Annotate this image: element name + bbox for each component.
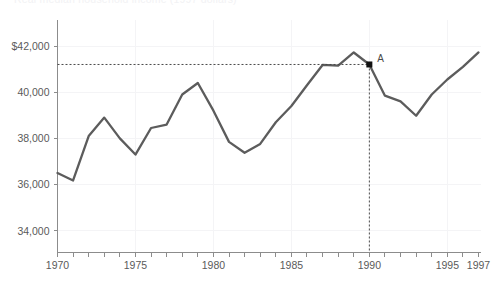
annotation-label-a: A [377, 53, 384, 64]
y-tick-label: 36,000 [17, 178, 49, 190]
chart-figure: Real median household income (1997 dolla… [0, 0, 501, 287]
y-tick-label: 40,000 [17, 86, 49, 98]
grid-lines [58, 20, 481, 253]
x-tick-label: 1985 [280, 259, 304, 271]
x-tick-label: 1990 [358, 259, 382, 271]
x-tick-label: 1997 [467, 259, 491, 271]
y-axis-ticks: 34,00036,00038,00040,000$42,000 [12, 40, 58, 237]
x-tick-label: 1995 [436, 259, 460, 271]
line-chart-canvas: 34,00036,00038,00040,000$42,000 19701975… [0, 0, 501, 287]
y-tick-label: 38,000 [17, 132, 49, 144]
annotation-group: A [58, 53, 385, 252]
x-axis-ticks: 1970197519801985199019951997 [46, 253, 491, 271]
x-tick-label: 1980 [202, 259, 226, 271]
x-tick-label: 1970 [46, 259, 70, 271]
y-tick-label: $42,000 [12, 40, 50, 52]
data-series [58, 52, 479, 180]
annotation-marker-dot[interactable] [366, 61, 372, 67]
axes [58, 20, 481, 253]
series-line-median-income [58, 52, 479, 180]
x-tick-label: 1975 [124, 259, 148, 271]
y-tick-label: 34,000 [17, 225, 49, 237]
